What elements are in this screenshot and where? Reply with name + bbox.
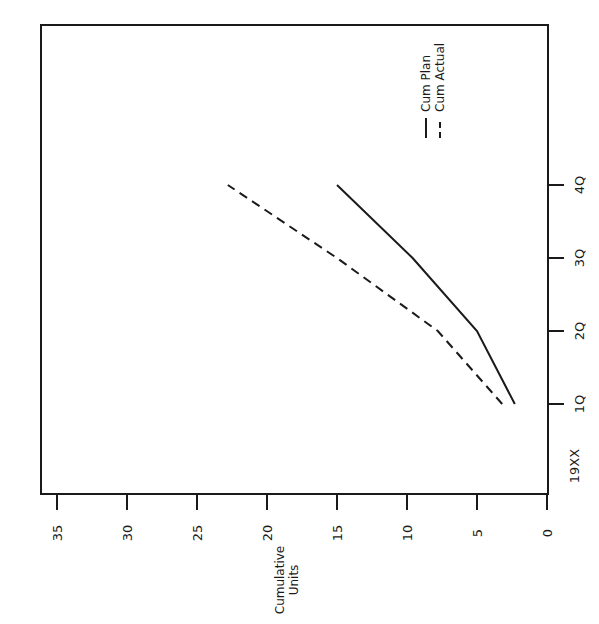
axis-title-line-2: Units: [287, 565, 301, 596]
legend-label-actual: Cum Actual: [433, 43, 447, 112]
category-tick-label: 4Q: [572, 176, 587, 195]
value-axis-title: Cumulative Units: [273, 546, 301, 615]
category-tick-label: 3Q: [572, 249, 587, 268]
value-tick-label: 30: [120, 525, 135, 542]
legend: Cum Plan Cum Actual: [419, 43, 447, 138]
category-axis-ticks: [548, 185, 564, 404]
axis-title-line-1: Cumulative: [273, 546, 287, 615]
value-tick-label: 25: [190, 525, 205, 542]
value-tick-label: 35: [50, 525, 65, 542]
value-axis-tick-labels: 05101520253035: [50, 525, 555, 542]
chart: 05101520253035 1Q2Q3Q4Q 19XX Cumulative …: [0, 0, 599, 624]
value-tick-label: 15: [330, 525, 345, 542]
series-cum-plan: [337, 185, 515, 404]
category-axis-tick-labels: 1Q2Q3Q4Q: [572, 176, 587, 414]
series-cum-actual: [228, 185, 502, 404]
plot-frame: [41, 25, 548, 494]
value-tick-label: 20: [260, 525, 275, 542]
legend-label-plan: Cum Plan: [419, 55, 433, 112]
series-lines: [228, 185, 515, 404]
value-axis-ticks: [57, 494, 547, 510]
year-label: 19XX: [567, 449, 582, 483]
category-tick-label: 1Q: [572, 395, 587, 414]
value-tick-label: 10: [400, 525, 415, 542]
value-tick-label: 5: [470, 529, 485, 537]
value-tick-label: 0: [540, 529, 555, 537]
category-tick-label: 2Q: [572, 322, 587, 341]
